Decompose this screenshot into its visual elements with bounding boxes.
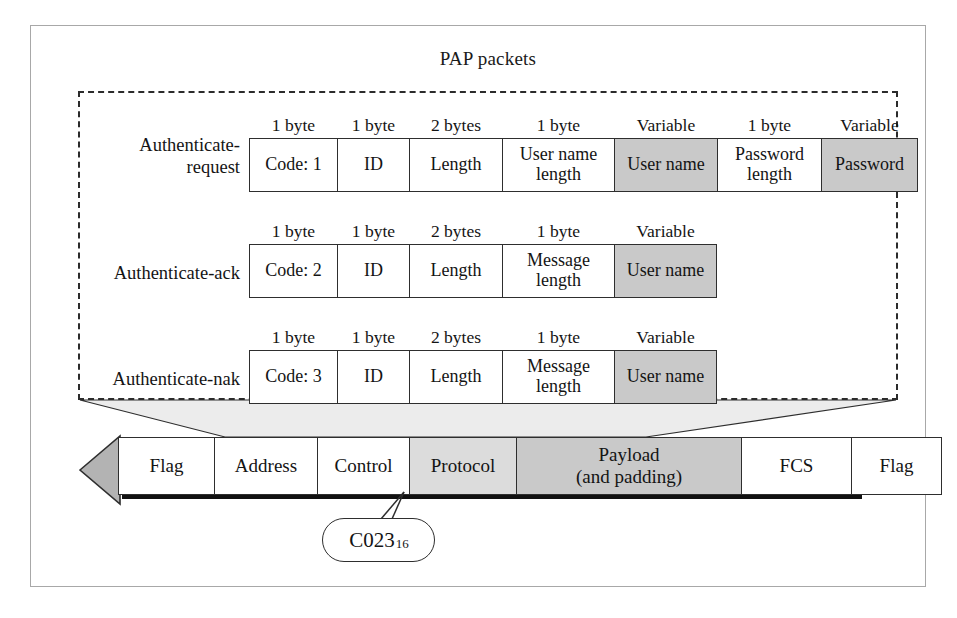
- pap-packet-format-figure: PAP packets Authenticate- request 1 byte…: [0, 0, 957, 618]
- callout-value: C023: [349, 528, 395, 553]
- callout-subscript: 16: [396, 536, 409, 552]
- protocol-value-callout: C02316: [322, 518, 435, 562]
- callout-leader-line: [0, 0, 957, 618]
